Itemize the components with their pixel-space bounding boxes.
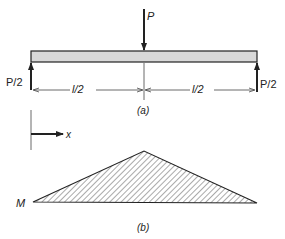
- right-reaction-label: P/2: [260, 78, 277, 90]
- beam: [31, 51, 257, 62]
- left-reaction-label: P/2: [6, 76, 23, 88]
- x-axis-label: x: [65, 129, 72, 140]
- figure-b: x M (b): [16, 110, 257, 233]
- moment-diagram: [33, 151, 257, 203]
- right-span-label: l/2: [192, 83, 204, 95]
- caption-a: (a): [137, 105, 149, 116]
- moment-label: M: [16, 197, 26, 209]
- left-span-label: l/2: [72, 83, 84, 95]
- beam-diagram: P P/2 P/2 l/2 l/2 (a) x M (b): [0, 0, 285, 239]
- figure-a: P P/2 P/2 l/2 l/2 (a): [6, 9, 277, 116]
- load-label: P: [147, 10, 155, 22]
- caption-b: (b): [137, 222, 149, 233]
